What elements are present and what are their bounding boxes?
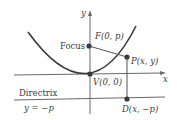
x-axis-label: x <box>163 74 168 84</box>
focus-point <box>86 43 91 48</box>
point-p <box>124 54 129 59</box>
point-p-label: P(x, y) <box>130 56 158 66</box>
vertex-point <box>87 71 92 76</box>
vertex-label: V(0, 0) <box>93 77 122 87</box>
point-d-label: D(x, −p) <box>121 104 158 114</box>
y-axis-arrow-icon <box>88 10 92 16</box>
directrix-word-label: Directrix <box>19 88 58 98</box>
parabola-diagram: y x Focus F(0, p) P(x, y) V(0, 0) Direct… <box>0 0 177 120</box>
point-d <box>124 96 129 101</box>
y-axis-label: y <box>80 8 86 18</box>
focus-point-label: F(0, p) <box>94 31 124 41</box>
directrix-equation-label: y = −p <box>23 103 54 113</box>
focus-word-label: Focus <box>60 41 85 51</box>
